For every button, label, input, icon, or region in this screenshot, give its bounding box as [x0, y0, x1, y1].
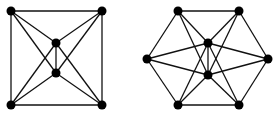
node-e [52, 39, 61, 48]
edge-a-f [11, 11, 56, 73]
node-c [7, 101, 16, 110]
edge-d-e [56, 43, 102, 105]
edge-q-v [208, 11, 239, 43]
edge-d-f [56, 73, 102, 105]
node-w [204, 71, 213, 80]
node-a [7, 7, 16, 16]
edge-c-e [11, 43, 56, 105]
node-p [174, 7, 183, 16]
edge-b-f [56, 11, 102, 73]
node-b [98, 7, 107, 16]
node-r [143, 55, 152, 64]
edge-c-f [11, 73, 56, 105]
node-t [174, 101, 183, 110]
edge-q-w [208, 11, 239, 75]
edge-t-w [178, 75, 208, 105]
node-u [235, 101, 244, 110]
edge-u-w [208, 75, 239, 105]
node-v [204, 39, 213, 48]
edge-p-v [178, 11, 208, 43]
node-f [52, 69, 61, 78]
square-graph [7, 7, 107, 110]
node-d [98, 101, 107, 110]
hexagon-graph [143, 7, 273, 110]
node-q [235, 7, 244, 16]
graph-diagram [0, 0, 279, 116]
edge-b-e [56, 11, 102, 43]
node-s [264, 55, 273, 64]
edge-a-e [11, 11, 56, 43]
